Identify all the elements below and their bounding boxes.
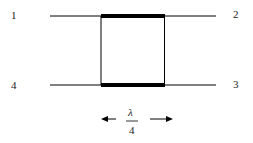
port-4-label: 4 — [11, 79, 17, 91]
lambda-label: λ — [128, 106, 133, 118]
port-3-label: 3 — [233, 78, 239, 90]
right-arrowhead-icon — [166, 116, 173, 122]
port-2-label: 2 — [233, 8, 239, 20]
quarter-label: 4 — [129, 124, 135, 136]
coupler-diagram — [0, 0, 253, 143]
left-arrowhead-icon — [101, 116, 108, 122]
port-1-label: 1 — [11, 9, 17, 21]
